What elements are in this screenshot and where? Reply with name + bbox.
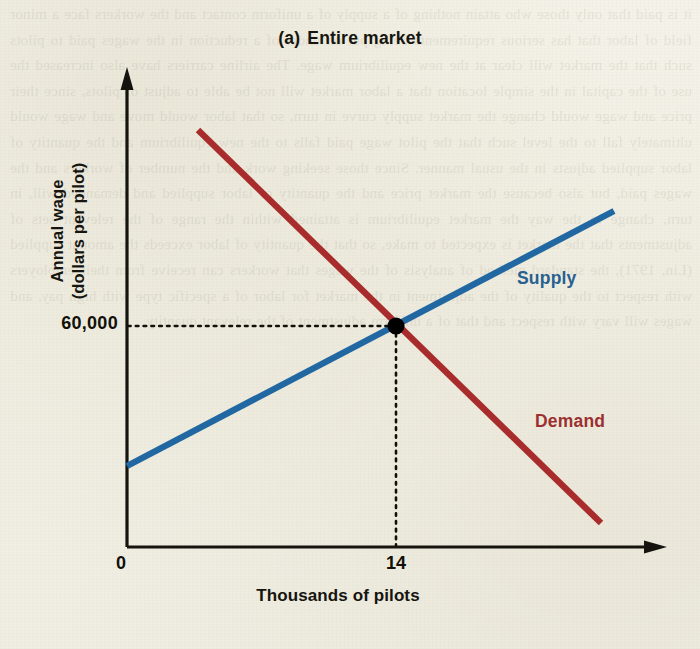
y-axis xyxy=(121,67,134,547)
y-axis-label-line1: Annual wage xyxy=(47,116,68,346)
panel-tag: (a) xyxy=(278,28,300,48)
y-axis-tick-60000: 60,000 xyxy=(61,313,118,334)
y-axis-label: Annual wage (dollars per pilot) xyxy=(47,116,89,346)
supply-demand-chart: (a)Entire market xyxy=(0,0,700,649)
x-axis-tick-14: 14 xyxy=(378,553,414,574)
panel-title-text: Entire market xyxy=(307,28,421,48)
x-axis xyxy=(127,541,667,554)
figure-page: it is paid that only those who attain no… xyxy=(0,0,700,649)
x-axis-tick-0: 0 xyxy=(116,553,126,574)
equilibrium-point-marker xyxy=(387,317,404,334)
demand-curve-label: Demand xyxy=(535,411,605,432)
y-axis-label-line2: (dollars per pilot) xyxy=(68,116,89,346)
supply-curve-label: Supply xyxy=(517,268,577,289)
x-axis-label: Thousands of pilots xyxy=(128,586,548,606)
panel-title: (a)Entire market xyxy=(0,28,700,49)
